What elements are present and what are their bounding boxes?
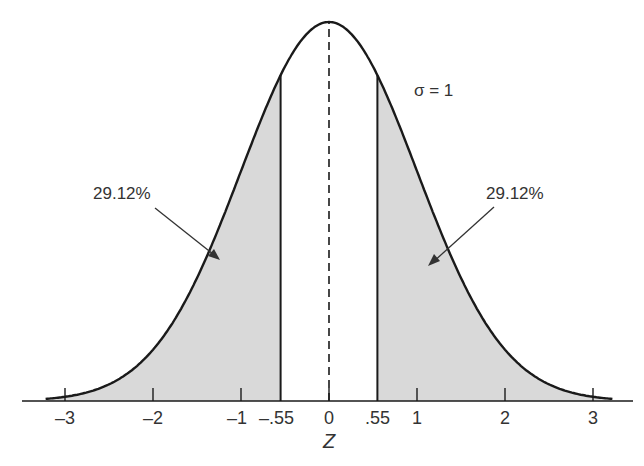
x-tick-label: .55 bbox=[365, 408, 390, 428]
x-tick-label: 3 bbox=[588, 408, 598, 428]
normal-distribution-chart: –3–2–1–.550.55123 Z σ = 1 29.12% 29.12% bbox=[0, 0, 644, 466]
x-tick-label: 1 bbox=[412, 408, 422, 428]
x-axis-label: Z bbox=[322, 430, 336, 452]
right-percent-label: 29.12% bbox=[486, 184, 544, 203]
x-tick-label: –.55 bbox=[259, 408, 294, 428]
x-tick-label: 2 bbox=[500, 408, 510, 428]
shaded-region bbox=[47, 75, 280, 401]
left-percent-label: 29.12% bbox=[93, 184, 151, 203]
x-tick-label: –2 bbox=[143, 408, 163, 428]
shaded-region bbox=[377, 75, 610, 401]
x-tick-label: 0 bbox=[324, 408, 334, 428]
x-tick-label: –3 bbox=[55, 408, 75, 428]
left-arrow bbox=[155, 208, 220, 260]
x-tick-label: –1 bbox=[227, 408, 247, 428]
sigma-label: σ = 1 bbox=[414, 81, 453, 100]
x-axis-tick-labels: –3–2–1–.550.55123 bbox=[55, 408, 598, 428]
